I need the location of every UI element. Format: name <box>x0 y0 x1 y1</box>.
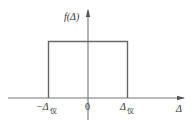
x-axis-label: Δ <box>176 104 182 114</box>
chart-canvas <box>0 0 196 124</box>
tick-label-zero: 0 <box>85 102 90 112</box>
tick-label-neg-delta: −Δ仪 <box>36 102 57 112</box>
tick-label-pos-delta: Δ仪 <box>120 102 134 112</box>
uniform-distribution-figure: f(Δ) −Δ仪 0 Δ仪 Δ <box>0 0 196 124</box>
y-axis-label: f(Δ) <box>64 12 79 22</box>
